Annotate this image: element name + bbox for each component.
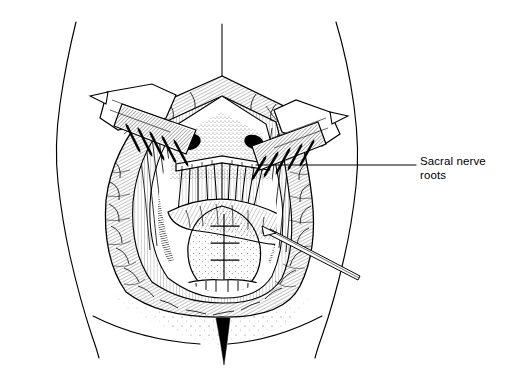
figure-root: Sacral nerve roots [0,0,505,379]
sacral-exposure-illustration [0,0,505,379]
